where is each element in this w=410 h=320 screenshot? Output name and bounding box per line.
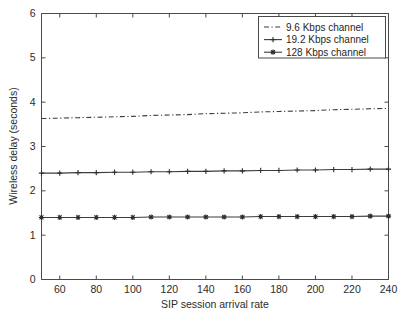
x-tick-label: 140 bbox=[197, 283, 215, 295]
legend-items: 9.6 Kbps channel19.2 Kbps channel128 Kbp… bbox=[264, 22, 369, 58]
x-tick-label: 120 bbox=[161, 283, 179, 295]
y-tick-label: 3 bbox=[30, 140, 36, 152]
y-tick-label: 2 bbox=[30, 184, 36, 196]
x-tick-label: 60 bbox=[54, 283, 66, 295]
y-tick-label: 5 bbox=[30, 51, 36, 63]
y-tick-label: 4 bbox=[30, 96, 36, 108]
legend-label: 19.2 Kbps channel bbox=[286, 34, 369, 45]
x-tick-label: 240 bbox=[380, 283, 398, 295]
chart-figure: 6080100120140160180200220240 0123456 SIP… bbox=[0, 0, 410, 320]
x-tick-label: 200 bbox=[307, 283, 325, 295]
x-tick-label: 80 bbox=[90, 283, 102, 295]
wireless-delay-line-chart: 6080100120140160180200220240 0123456 SIP… bbox=[0, 0, 410, 320]
y-tick-label: 1 bbox=[30, 229, 36, 241]
x-tick-label: 220 bbox=[343, 283, 361, 295]
y-tick-label: 6 bbox=[30, 7, 36, 19]
legend-label: 128 Kbps channel bbox=[286, 47, 366, 58]
chart-legend: 9.6 Kbps channel19.2 Kbps channel128 Kbp… bbox=[259, 17, 386, 59]
x-tick-label: 180 bbox=[270, 283, 288, 295]
x-tick-label: 100 bbox=[124, 283, 142, 295]
legend-label: 9.6 Kbps channel bbox=[286, 22, 363, 33]
y-tick-label: 0 bbox=[30, 273, 36, 285]
x-axis-label: SIP session arrival rate bbox=[161, 298, 269, 310]
x-tick-label: 160 bbox=[234, 283, 252, 295]
y-axis-label: Wireless delay (seconds) bbox=[7, 87, 19, 204]
